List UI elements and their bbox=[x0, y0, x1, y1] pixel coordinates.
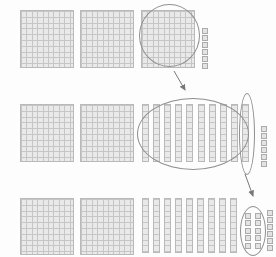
hundred-block bbox=[20, 10, 74, 68]
base-ten-blocks-diagram bbox=[0, 0, 276, 257]
one-cube bbox=[202, 56, 208, 62]
hundred-block bbox=[20, 198, 74, 255]
one-cube bbox=[261, 161, 267, 167]
ten-rod bbox=[197, 198, 204, 253]
ten-rod bbox=[175, 198, 182, 253]
oval-highlight-one-ten bbox=[239, 93, 255, 175]
one-cube bbox=[267, 210, 273, 216]
one-cube bbox=[267, 245, 273, 251]
one-cube bbox=[267, 238, 273, 244]
one-cube bbox=[202, 63, 208, 69]
one-cube bbox=[261, 126, 267, 132]
one-cube bbox=[261, 133, 267, 139]
one-cube bbox=[261, 140, 267, 146]
one-cube bbox=[267, 231, 273, 237]
ten-rod bbox=[153, 198, 160, 253]
one-cube bbox=[202, 42, 208, 48]
circle-highlight-hundred bbox=[139, 4, 200, 67]
one-cube bbox=[202, 49, 208, 55]
hundred-block bbox=[80, 104, 134, 162]
one-cube bbox=[261, 154, 267, 160]
arrow-ten-to-ones-icon bbox=[245, 174, 253, 196]
one-cube bbox=[202, 35, 208, 41]
one-cube bbox=[267, 224, 273, 230]
one-cube bbox=[202, 28, 208, 34]
ten-rod bbox=[142, 198, 149, 253]
hundred-block bbox=[80, 198, 134, 255]
arrow-hundred-to-tens-icon bbox=[174, 71, 185, 90]
one-cube bbox=[261, 147, 267, 153]
ten-rod bbox=[208, 198, 215, 253]
ten-rod bbox=[219, 198, 226, 253]
one-cube bbox=[267, 217, 273, 223]
ten-rod bbox=[186, 198, 193, 253]
hundred-block bbox=[80, 10, 134, 68]
ten-rod bbox=[164, 198, 171, 253]
hundred-block bbox=[20, 104, 74, 162]
ten-rod bbox=[230, 198, 237, 253]
oval-highlight-ten-tens bbox=[137, 98, 249, 170]
oval-highlight-ten-ones bbox=[240, 206, 266, 256]
